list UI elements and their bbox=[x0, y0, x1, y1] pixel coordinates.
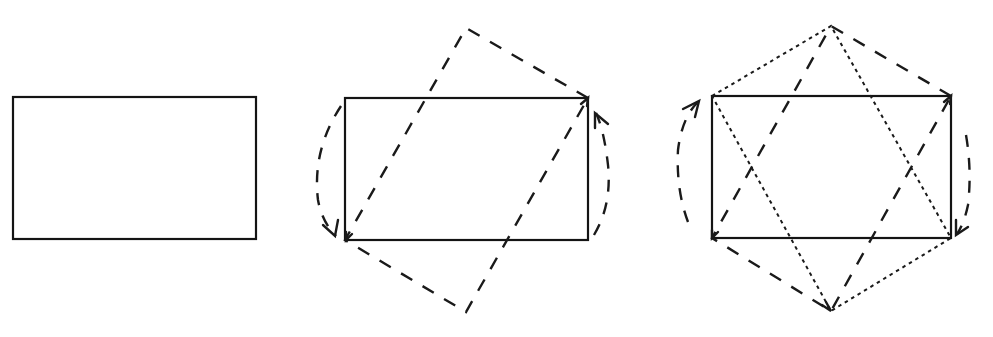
arrowhead-up-icon bbox=[595, 113, 608, 128]
corner-arrow-icon bbox=[581, 98, 588, 106]
figure-caption bbox=[8, 328, 98, 337]
rotation-arc-left bbox=[678, 103, 697, 222]
panel-1 bbox=[13, 97, 256, 239]
panel-3 bbox=[678, 26, 970, 311]
rotation-arc-right bbox=[957, 135, 970, 234]
dotted-parallelogram bbox=[712, 26, 951, 311]
panel-2 bbox=[317, 28, 609, 312]
rotation-arc-right bbox=[594, 113, 609, 235]
rectangle bbox=[712, 96, 951, 238]
bottom-apex-mark-icon bbox=[822, 302, 831, 311]
dashed-rotated-rectangle bbox=[345, 28, 588, 312]
diagram-canvas bbox=[0, 0, 993, 337]
corner-arrow-icon bbox=[712, 230, 718, 238]
dashed-parallelogram bbox=[712, 26, 951, 311]
rectangle bbox=[345, 98, 588, 240]
rectangle bbox=[13, 97, 256, 239]
rotation-arc-left bbox=[317, 106, 341, 236]
